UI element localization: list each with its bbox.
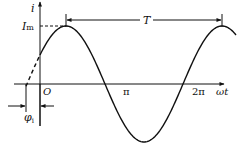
tick-2pi: 2π: [192, 86, 205, 97]
origin-label: O: [43, 86, 51, 97]
x-axis-label: ωt: [216, 86, 229, 97]
tick-pi: π: [123, 86, 130, 97]
phase-label: φi: [24, 111, 35, 125]
y-axis-label: i: [31, 2, 35, 15]
period-label: T: [143, 14, 152, 27]
amplitude-label: Im: [21, 20, 34, 33]
curve-dashed-segment: [26, 55, 40, 86]
sine-wave-diagram: i Im T O π 2π ωt φi: [0, 0, 239, 152]
